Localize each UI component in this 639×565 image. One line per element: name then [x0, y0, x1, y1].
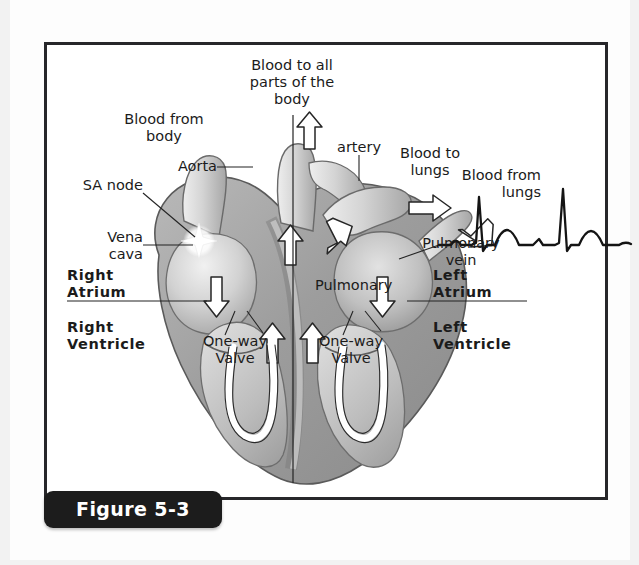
label-one-way-valve-right: One-way Valve	[189, 333, 281, 367]
figure-panel: Blood to all parts of the body Blood fro…	[44, 42, 608, 500]
figure-page: Blood to all parts of the body Blood fro…	[0, 0, 639, 565]
label-right-ventricle: Right Ventricle	[67, 319, 145, 353]
label-artery: artery	[329, 139, 389, 156]
aorta-vessel	[278, 144, 317, 231]
label-left-ventricle: Left Ventricle	[433, 319, 511, 353]
label-pulmonary-vein: Pulmonary vein	[409, 235, 513, 269]
label-pulmonary: Pulmonary	[315, 277, 392, 294]
label-aorta: Aorta	[147, 158, 217, 175]
label-blood-to-body: Blood to all parts of the body	[227, 57, 357, 108]
label-right-atrium: Right Atrium	[67, 267, 126, 301]
label-blood-from-body: Blood from body	[99, 111, 229, 145]
label-blood-from-lungs: Blood from lungs	[437, 167, 541, 201]
figure-caption-tab: Figure 5-3	[44, 491, 222, 528]
label-left-atrium: Left Atrium	[433, 267, 492, 301]
label-one-way-valve-left: One-way Valve	[305, 333, 397, 367]
figure-caption-label: Figure 5-3	[44, 498, 222, 520]
label-sa-node: SA node	[47, 177, 143, 194]
label-vena-cava: Vena cava	[47, 229, 143, 263]
